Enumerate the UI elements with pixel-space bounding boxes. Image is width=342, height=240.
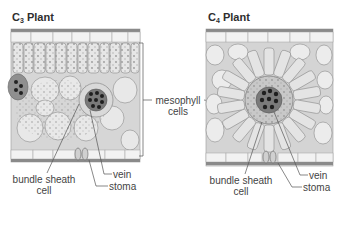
c4-bundle-sheath-line2: cell: [205, 186, 277, 197]
c3-bundle-sheath-label: bundle sheath cell: [8, 174, 80, 196]
c4-vein-label: vein: [309, 170, 327, 181]
c4-vein: [256, 87, 282, 113]
c3-bundle-sheath-line2: cell: [8, 185, 80, 196]
c3-partial-vein: [8, 74, 28, 100]
c4-bundle-sheath-line1: bundle sheath: [205, 175, 277, 186]
c3-leaf-section: [8, 29, 140, 162]
mesophyll-label-line2: cells: [152, 106, 204, 117]
c4-bundle-sheath-label: bundle sheath cell: [205, 175, 277, 197]
c3-vein: [79, 83, 113, 117]
mesophyll-cells-label: mesophyll cells: [152, 95, 204, 117]
c3-vein-label: vein: [113, 169, 131, 180]
c3-bundle-sheath-line1: bundle sheath: [8, 174, 80, 185]
c4-stoma-label: stoma: [303, 182, 330, 193]
mesophyll-label-line1: mesophyll: [152, 95, 204, 106]
c4-leaf-section: [206, 29, 333, 166]
c3-stoma-label: stoma: [109, 181, 136, 192]
